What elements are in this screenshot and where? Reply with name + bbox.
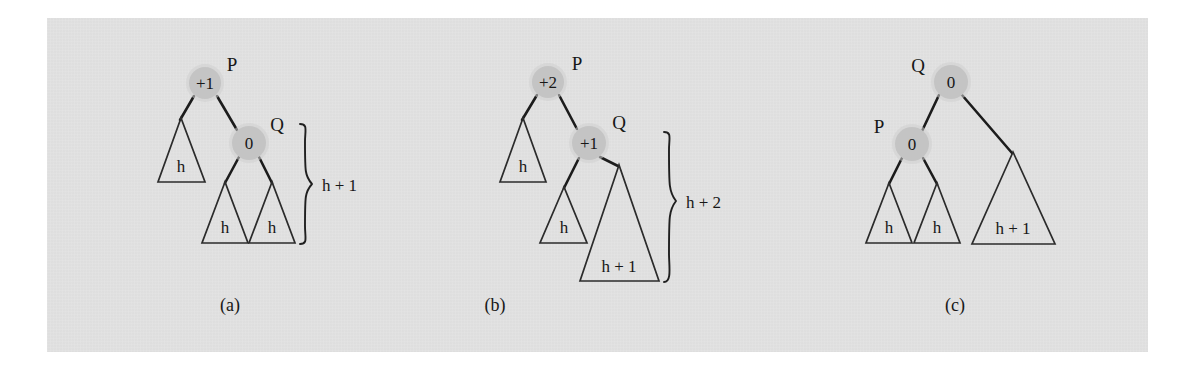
edge-p-to-q-b — [559, 95, 577, 129]
edge-p-to-left-subtree-b — [522, 95, 537, 120]
subtree-label-b-q-right: h + 1 — [601, 257, 636, 276]
node-p-name-a: P — [227, 54, 238, 75]
height-label-a: h + 1 — [322, 176, 357, 195]
avl-rotation-diagram: h h h +1 P 0 Q h + 1 (a) — [0, 0, 1194, 383]
node-q-name-b: Q — [612, 112, 626, 133]
subtree-label-a-q-right: h — [268, 218, 277, 237]
edge-q-to-left-subtree-b — [564, 158, 579, 188]
node-p-value-a: +1 — [196, 74, 214, 93]
node-p-name-c: P — [874, 116, 885, 137]
edge-p-to-q-a — [217, 96, 237, 130]
panel-caption-a: (a) — [220, 295, 240, 316]
panel-c: h h h + 1 0 Q 0 P (c) — [866, 55, 1055, 316]
subtree-label-b-left: h — [519, 157, 528, 176]
subtree-label-a-left: h — [177, 157, 186, 176]
edge-q-to-right-subtree-c — [962, 95, 1012, 153]
subtree-label-c-q-right: h + 1 — [995, 219, 1030, 238]
subtree-label-c-p-right: h — [933, 218, 942, 237]
subtree-label-c-p-left: h — [885, 218, 894, 237]
node-p-name-b: P — [572, 53, 583, 74]
figure-root: h h h +1 P 0 Q h + 1 (a) — [0, 0, 1194, 383]
node-q-name-c: Q — [911, 55, 925, 76]
edge-p-to-left-subtree-c — [889, 158, 902, 184]
edge-q-to-left-subtree-a — [225, 157, 239, 183]
node-p-value-c: 0 — [908, 135, 917, 154]
panel-caption-b: (b) — [485, 295, 506, 316]
edge-p-to-left-subtree-a — [180, 96, 194, 120]
subtree-label-a-q-left: h — [221, 218, 230, 237]
node-p-value-b: +2 — [539, 73, 557, 92]
panel-caption-c: (c) — [945, 295, 965, 316]
panel-a: h h h +1 P 0 Q h + 1 (a) — [158, 54, 357, 316]
node-q-value-a: 0 — [245, 134, 254, 153]
edge-q-to-right-subtree-b — [600, 157, 618, 166]
panel-b: h h h + 1 +2 P +1 Q h + 2 (b) — [485, 53, 722, 316]
height-brace-a — [300, 124, 312, 244]
edge-p-to-right-subtree-c — [923, 158, 937, 184]
node-q-value-c: 0 — [947, 73, 956, 92]
subtree-label-b-q-left: h — [560, 218, 569, 237]
edge-q-to-right-subtree-a — [259, 157, 272, 183]
node-q-value-b: +1 — [580, 134, 598, 153]
node-q-name-a: Q — [270, 114, 284, 135]
height-brace-b — [664, 132, 676, 282]
edge-q-to-p-c — [922, 95, 939, 131]
height-label-b: h + 2 — [686, 193, 721, 212]
